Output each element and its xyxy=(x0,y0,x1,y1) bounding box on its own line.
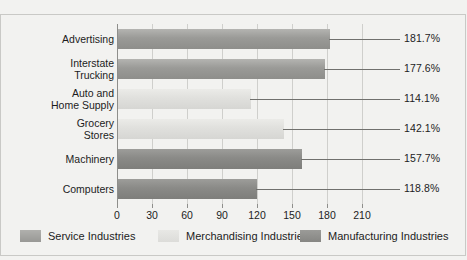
value-label: 177.6% xyxy=(404,62,440,74)
x-tick-180 xyxy=(327,204,328,208)
value-label: 118.8% xyxy=(404,182,439,194)
legend-item-service: Service Industries xyxy=(20,228,135,244)
x-tick-label: 30 xyxy=(146,209,158,221)
leader-line xyxy=(301,159,400,160)
bar-fill xyxy=(118,179,257,199)
x-tick-label: 180 xyxy=(318,209,336,221)
bar-fill xyxy=(118,59,325,79)
x-tick-label: 0 xyxy=(114,209,120,221)
x-axis: 0306090120150180210 xyxy=(117,204,362,209)
leader-line xyxy=(324,69,400,70)
leader-line xyxy=(329,39,400,40)
plot-area xyxy=(117,24,362,204)
bar-fill xyxy=(118,149,302,169)
x-tick-label: 210 xyxy=(353,209,371,221)
category-axis-labels: AdvertisingInterstate TruckingAuto and H… xyxy=(0,24,114,204)
category-label: Grocery Stores xyxy=(2,117,114,142)
legend-label: Merchandising Industries xyxy=(186,230,308,242)
bar xyxy=(118,179,257,199)
x-tick-210 xyxy=(362,204,363,208)
x-tick-90 xyxy=(222,204,223,208)
legend-item-merchandising: Merchandising Industries xyxy=(158,228,308,244)
category-label: Computers xyxy=(2,183,114,196)
category-label: Interstate Trucking xyxy=(2,57,114,82)
bar xyxy=(118,149,302,169)
x-tick-label: 60 xyxy=(181,209,193,221)
x-tick-150 xyxy=(292,204,293,208)
chart-legend: Service IndustriesMerchandising Industri… xyxy=(0,228,467,248)
bar-fill xyxy=(118,119,284,139)
value-label: 114.1% xyxy=(404,92,439,104)
legend-label: Service Industries xyxy=(48,230,135,242)
gridline-90 xyxy=(222,24,223,204)
x-tick-0 xyxy=(117,204,118,208)
gridline-30 xyxy=(152,24,153,204)
bar xyxy=(118,119,284,139)
x-tick-120 xyxy=(257,204,258,208)
legend-item-manufacturing: Manufacturing Industries xyxy=(300,228,448,244)
value-label: 142.1% xyxy=(404,122,440,134)
bar xyxy=(118,29,330,49)
bar xyxy=(118,89,251,109)
category-label: Advertising xyxy=(2,33,114,46)
legend-swatch-manufacturing xyxy=(300,230,321,242)
x-tick-60 xyxy=(187,204,188,208)
bar xyxy=(118,59,325,79)
bar-fill xyxy=(118,29,330,49)
x-tick-label: 150 xyxy=(283,209,301,221)
legend-swatch-service xyxy=(20,230,41,242)
leader-line xyxy=(250,99,400,100)
value-label: 181.7% xyxy=(404,32,440,44)
category-label: Machinery xyxy=(2,153,114,166)
x-tick-label: 120 xyxy=(248,209,266,221)
gridline-180 xyxy=(327,24,328,204)
bar-fill xyxy=(118,89,251,109)
leader-line xyxy=(283,129,400,130)
gridline-60 xyxy=(187,24,188,204)
legend-label: Manufacturing Industries xyxy=(328,230,448,242)
gridline-120 xyxy=(257,24,258,204)
gridline-210 xyxy=(362,24,363,204)
bar-chart-figure: AdvertisingInterstate TruckingAuto and H… xyxy=(0,0,467,260)
category-label: Auto and Home Supply xyxy=(2,87,114,112)
x-tick-30 xyxy=(152,204,153,208)
value-label: 157.7% xyxy=(404,152,440,164)
y-axis-line xyxy=(117,24,118,204)
gridline-150 xyxy=(292,24,293,204)
leader-line xyxy=(256,189,400,190)
legend-swatch-merchandising xyxy=(158,230,179,242)
x-tick-label: 90 xyxy=(216,209,228,221)
